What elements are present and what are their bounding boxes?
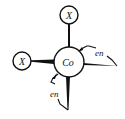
- ligand-en-bottom: en: [50, 73, 70, 110]
- central-atom-co: Co: [54, 47, 84, 77]
- x-left-bond: [31, 60, 54, 65]
- en-right-wedge: [83, 63, 117, 66]
- ligand-x-left: X: [13, 52, 54, 70]
- en-right-label: en: [95, 48, 104, 58]
- en-bottom-wedge: [66, 76, 70, 110]
- cobalt-complex-diagram: X X en en Co: [0, 0, 125, 119]
- en-right-chain-lower: [107, 56, 117, 66]
- en-bottom-label: en: [50, 89, 59, 99]
- co-label: Co: [62, 57, 74, 68]
- x-left-label: X: [18, 56, 26, 67]
- ligand-x-top: X: [60, 6, 78, 47]
- en-bottom-chain-lower: [58, 99, 68, 110]
- x-top-label: X: [65, 10, 73, 21]
